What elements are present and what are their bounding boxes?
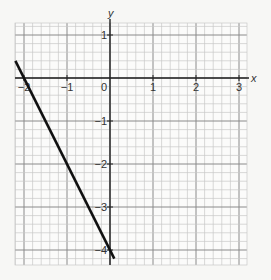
- svg-text:−1: −1: [61, 81, 74, 93]
- svg-text:−4: −4: [94, 244, 107, 256]
- grid: [15, 23, 247, 265]
- svg-text:2: 2: [193, 81, 199, 93]
- x-axis-label: x: [250, 72, 257, 84]
- svg-text:−3: −3: [94, 201, 107, 213]
- svg-text:−1: −1: [94, 115, 107, 127]
- svg-text:3: 3: [236, 81, 242, 93]
- svg-text:−2: −2: [94, 158, 107, 170]
- graph-plot: −2−101231−1−2−3−4 x y: [0, 0, 271, 280]
- y-axis-label: y: [107, 7, 115, 19]
- svg-text:1: 1: [150, 81, 156, 93]
- svg-text:0: 0: [101, 81, 107, 93]
- svg-text:1: 1: [101, 29, 107, 41]
